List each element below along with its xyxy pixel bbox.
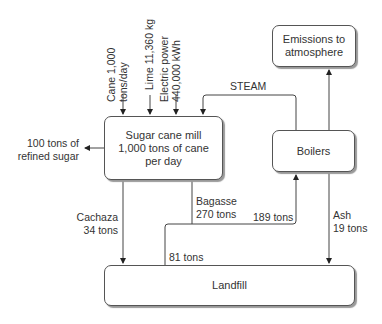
landfill-label: Landfill bbox=[212, 279, 247, 292]
cachaza-line2: 34 tons bbox=[77, 224, 118, 237]
refined-sugar-label: 100 tons of refined sugar bbox=[18, 137, 79, 163]
ash-line2: 19 tons bbox=[333, 222, 367, 235]
steam-label: STEAM bbox=[230, 80, 266, 93]
ash-label: Ash 19 tons bbox=[333, 209, 367, 235]
cachaza-label: Cachaza 34 tons bbox=[77, 211, 118, 237]
emissions-node: Emissions to atmosphere bbox=[272, 25, 356, 67]
mill-line1: Sugar cane mill bbox=[118, 129, 209, 142]
mill-line2: 1,000 tons of cane bbox=[118, 142, 209, 155]
lime-input-label: Lime 11,360 kg bbox=[143, 19, 155, 90]
cane-label-line1: Cane 1,000 bbox=[105, 48, 117, 102]
sugar-cane-mill-node: Sugar cane mill 1,000 tons of cane per d… bbox=[104, 116, 223, 180]
landfill-node: Landfill bbox=[104, 265, 355, 306]
emissions-line1: Emissions to bbox=[283, 33, 345, 46]
refined-sugar-line1: 100 tons of bbox=[18, 137, 79, 150]
bagasse-to-landfill-label: 81 tons bbox=[169, 251, 203, 264]
power-label-line1: Electric power bbox=[158, 36, 170, 102]
boilers-label: Boilers bbox=[297, 145, 331, 158]
bagasse-line2: 270 tons bbox=[196, 208, 237, 221]
cane-label-line2: tons/day bbox=[117, 48, 129, 102]
cane-input-label: Cane 1,000 tons/day bbox=[105, 48, 129, 102]
power-input-label: Electric power 440,000 kWh bbox=[158, 36, 182, 102]
mill-line3: per day bbox=[118, 155, 209, 168]
cachaza-line1: Cachaza bbox=[77, 211, 118, 224]
refined-sugar-line2: refined sugar bbox=[18, 150, 79, 163]
ash-line1: Ash bbox=[333, 209, 367, 222]
bagasse-to-boilers-label: 189 tons bbox=[253, 211, 293, 224]
lime-label-line1: Lime 11,360 kg bbox=[143, 19, 155, 90]
bagasse-line1: Bagasse bbox=[196, 195, 237, 208]
emissions-line2: atmosphere bbox=[283, 46, 345, 59]
boilers-node: Boilers bbox=[272, 130, 355, 172]
bagasse-label: Bagasse 270 tons bbox=[196, 195, 237, 221]
power-label-line2: 440,000 kWh bbox=[170, 36, 182, 102]
